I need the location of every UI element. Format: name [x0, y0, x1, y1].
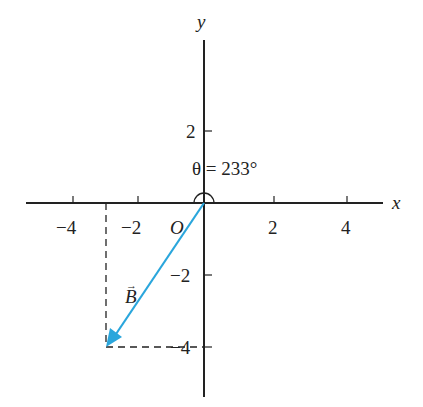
x-tick-label-4: 4 — [341, 217, 351, 238]
y-tick-label-neg2: −2 — [170, 265, 190, 286]
vector-diagram: y x O −4 −2 2 4 2 −2 −4 θ = 233° B → — [0, 0, 423, 407]
vector-arrow-symbol: → — [126, 279, 137, 291]
x-tick-label-neg2: −2 — [121, 217, 141, 238]
x-axis-label: x — [391, 192, 401, 213]
y-tick-label-2: 2 — [186, 121, 196, 142]
vector-b-arrowhead — [106, 328, 122, 347]
angle-label: θ = 233° — [192, 158, 257, 179]
x-tick-label-2: 2 — [268, 217, 278, 238]
x-tick-label-neg4: −4 — [56, 217, 77, 238]
y-tick-label-neg4: −4 — [170, 337, 191, 358]
x-ticks — [73, 196, 347, 203]
origin-label: O — [170, 217, 184, 238]
y-axis-label: y — [195, 11, 206, 32]
